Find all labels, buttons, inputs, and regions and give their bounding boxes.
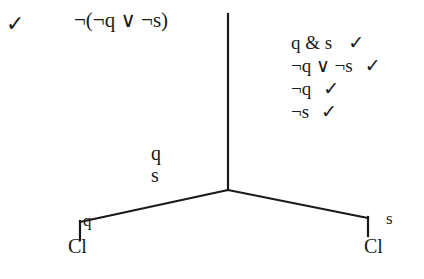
derived-line-check-icon: ✓ [323, 77, 339, 99]
derived-line-check-icon: ✓ [321, 100, 337, 122]
derived-line: ¬s ✓ [291, 100, 381, 123]
left-branch-line [80, 190, 228, 222]
derived-line: ¬q ✓ [291, 77, 381, 100]
derived-line-formula: ¬q [291, 78, 311, 100]
stem-label-q: q [151, 143, 161, 163]
left-branch-literal: q [83, 212, 92, 229]
derived-line-check-icon: ✓ [348, 31, 364, 53]
stem-label-s: s [151, 165, 159, 185]
right-branch-literal: s [386, 210, 393, 227]
derived-line-formula: ¬q ∨ ¬s [291, 54, 353, 77]
root-check-icon: ✓ [6, 13, 24, 35]
right-branch-closure-marker: Cl [364, 236, 383, 256]
truth-tree-diagram: ✓ ¬(¬q ∨ ¬s) q & s ✓ ¬q ∨ ¬s ✓ ¬q ✓ ¬s ✓… [0, 0, 424, 279]
derived-line-formula: ¬s [291, 101, 309, 123]
derived-line-formula: q & s [291, 32, 332, 54]
right-branch-line [228, 190, 368, 218]
left-branch-closure-marker: Cl [68, 236, 87, 256]
root-formula: ¬(¬q ∨ ¬s) [74, 10, 168, 31]
derived-line-check-icon: ✓ [365, 54, 381, 76]
derived-line: q & s ✓ [291, 31, 381, 54]
derived-lines-list: q & s ✓ ¬q ∨ ¬s ✓ ¬q ✓ ¬s ✓ [291, 31, 381, 123]
derived-line: ¬q ∨ ¬s ✓ [291, 54, 381, 77]
